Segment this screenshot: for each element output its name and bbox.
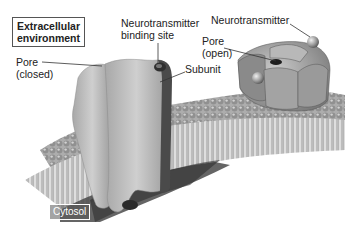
ion-channel-diagram: Extracellular environment Pore (closed) … <box>0 0 358 229</box>
neurotransmitter-leader <box>290 24 310 37</box>
neurotransmitter-binding-site-label: Neurotransmitter binding site <box>121 17 199 41</box>
cytosol-label: Cytosol <box>49 204 90 220</box>
closed-channel-right-subunit <box>105 59 168 212</box>
closed-pore-bottom <box>122 200 138 210</box>
pore-open-label: Pore (open) <box>202 35 232 59</box>
neurotransmitter-label: Neurotransmitter <box>211 14 289 26</box>
open-channel <box>238 36 330 111</box>
neurotransmitter-molecule-1 <box>307 36 319 48</box>
subunit-label: Subunit <box>185 63 221 75</box>
pore-closed-label: Pore (closed) <box>16 56 53 80</box>
extracellular-environment-label: Extracellular environment <box>12 17 85 47</box>
neurotransmitter-molecule-2 <box>252 72 264 84</box>
membrane-cross-section <box>25 118 345 215</box>
